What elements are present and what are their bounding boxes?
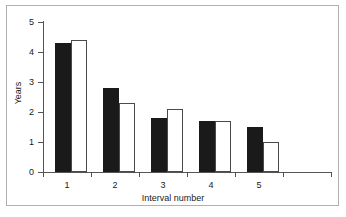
x-tick-label-5: 5 bbox=[244, 180, 274, 190]
x-tick-mark-b6 bbox=[331, 173, 332, 177]
bar-light-2 bbox=[119, 103, 135, 172]
x-tick-label-1: 1 bbox=[52, 180, 82, 190]
x-tick-label-2: 2 bbox=[100, 180, 130, 190]
x-axis-title: Interval number bbox=[0, 193, 346, 203]
bar-dark-4 bbox=[199, 121, 215, 172]
y-tick-mark-2 bbox=[38, 112, 43, 113]
y-tick-label-1: 1 bbox=[10, 138, 34, 147]
y-tick-mark-3 bbox=[38, 82, 43, 83]
bar-light-1 bbox=[71, 40, 87, 172]
bar-dark-5 bbox=[247, 127, 263, 172]
y-tick-mark-1 bbox=[38, 142, 43, 143]
x-tick-label-3: 3 bbox=[148, 180, 178, 190]
x-tick-mark-b0 bbox=[43, 173, 44, 177]
bar-light-5 bbox=[263, 142, 279, 172]
plot-area bbox=[44, 22, 332, 172]
y-tick-label-0: 0 bbox=[10, 168, 34, 177]
bar-dark-3 bbox=[151, 118, 167, 172]
bar-light-4 bbox=[215, 121, 231, 172]
x-tick-mark-b1 bbox=[91, 173, 92, 177]
y-tick-mark-5 bbox=[38, 22, 43, 23]
x-tick-mark-b5 bbox=[283, 173, 284, 177]
y-tick-label-4: 4 bbox=[10, 48, 34, 57]
bar-dark-2 bbox=[103, 88, 119, 172]
y-axis-title: Years bbox=[13, 63, 23, 123]
bar-light-3 bbox=[167, 109, 183, 172]
bar-dark-1 bbox=[55, 43, 71, 172]
y-tick-label-5: 5 bbox=[10, 18, 34, 27]
bar-chart-figure: 5 4 3 2 1 0 Years 1 2 3 4 5 Interval num… bbox=[0, 0, 346, 217]
x-tick-mark-b2 bbox=[139, 173, 140, 177]
x-tick-mark-b3 bbox=[187, 173, 188, 177]
x-tick-label-4: 4 bbox=[196, 180, 226, 190]
y-tick-mark-4 bbox=[38, 52, 43, 53]
x-tick-mark-b4 bbox=[235, 173, 236, 177]
